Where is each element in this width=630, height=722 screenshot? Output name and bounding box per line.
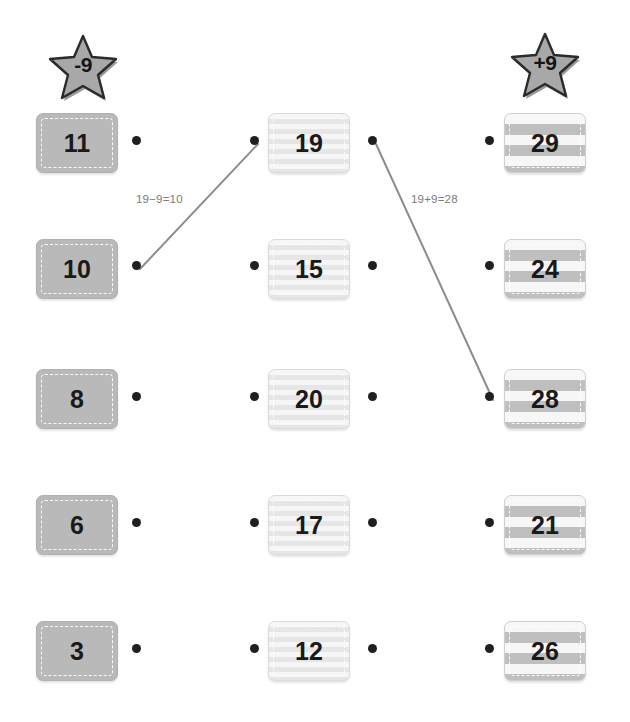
number-card-right-26[interactable]: 26 <box>504 621 592 685</box>
number-card-left-11[interactable]: 11 <box>36 113 124 177</box>
dot-mid-15-r[interactable] <box>368 261 377 270</box>
number-card-left-3[interactable]: 3 <box>36 621 124 685</box>
card-number-label: 26 <box>504 621 586 681</box>
number-card-right-21[interactable]: 21 <box>504 495 592 559</box>
worksheet-canvas: -9+9 111086319152017122924282126 19−9=10… <box>0 0 630 722</box>
connector-lines-layer <box>0 0 630 722</box>
card-number-label: 29 <box>504 113 586 173</box>
card-number-label: 15 <box>268 239 350 299</box>
dot-left-10[interactable] <box>132 261 141 270</box>
card-number-label: 28 <box>504 369 586 429</box>
minus-nine-star-label: -9 <box>46 32 120 102</box>
dot-mid-12-r[interactable] <box>368 644 377 653</box>
number-card-middle-12[interactable]: 12 <box>268 621 356 685</box>
number-card-middle-20[interactable]: 20 <box>268 369 356 433</box>
card-number-label: 12 <box>268 621 350 681</box>
number-card-right-24[interactable]: 24 <box>504 239 592 303</box>
card-number-label: 20 <box>268 369 350 429</box>
dot-right-29[interactable] <box>485 136 494 145</box>
dot-left-6[interactable] <box>132 518 141 527</box>
card-number-label: 24 <box>504 239 586 299</box>
dot-right-21[interactable] <box>485 518 494 527</box>
number-card-left-10[interactable]: 10 <box>36 239 124 303</box>
dot-left-8[interactable] <box>132 392 141 401</box>
card-number-label: 6 <box>36 495 118 555</box>
dot-right-24[interactable] <box>485 261 494 270</box>
card-number-label: 17 <box>268 495 350 555</box>
connection-19-to-10 <box>140 144 258 269</box>
dot-right-28[interactable] <box>485 392 494 401</box>
card-number-label: 10 <box>36 239 118 299</box>
number-card-right-28[interactable]: 28 <box>504 369 592 433</box>
dot-mid-15-l[interactable] <box>250 261 259 270</box>
card-number-label: 8 <box>36 369 118 429</box>
dot-mid-17-r[interactable] <box>368 518 377 527</box>
number-card-right-29[interactable]: 29 <box>504 113 592 177</box>
card-number-label: 21 <box>504 495 586 555</box>
equation-label-0: 19−9=10 <box>136 193 183 205</box>
dot-mid-20-l[interactable] <box>250 392 259 401</box>
number-card-middle-15[interactable]: 15 <box>268 239 356 303</box>
number-card-left-6[interactable]: 6 <box>36 495 124 559</box>
card-number-label: 3 <box>36 621 118 681</box>
card-number-label: 11 <box>36 113 118 173</box>
connection-19-to-28 <box>376 144 493 400</box>
plus-nine-star-label: +9 <box>508 30 582 100</box>
plus-nine-star: +9 <box>508 30 582 100</box>
dot-mid-20-r[interactable] <box>368 392 377 401</box>
number-card-middle-19[interactable]: 19 <box>268 113 356 177</box>
dot-left-3[interactable] <box>132 644 141 653</box>
card-number-label: 19 <box>268 113 350 173</box>
dot-right-26[interactable] <box>485 644 494 653</box>
number-card-middle-17[interactable]: 17 <box>268 495 356 559</box>
equation-label-1: 19+9=28 <box>411 193 458 205</box>
minus-nine-star: -9 <box>46 32 120 102</box>
dot-mid-19-l[interactable] <box>250 136 259 145</box>
dot-mid-19-r[interactable] <box>368 136 377 145</box>
number-card-left-8[interactable]: 8 <box>36 369 124 433</box>
dot-mid-12-l[interactable] <box>250 644 259 653</box>
dot-mid-17-l[interactable] <box>250 518 259 527</box>
dot-left-11[interactable] <box>132 136 141 145</box>
